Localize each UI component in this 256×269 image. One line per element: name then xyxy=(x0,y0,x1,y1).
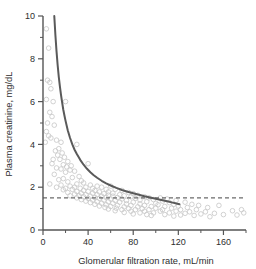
x-tick-label: 80 xyxy=(128,237,138,247)
x-axis-label: Glomerular filtration rate, mL/min xyxy=(78,256,213,266)
y-tick-label: 4 xyxy=(30,140,35,150)
x-tick-label: 160 xyxy=(216,237,231,247)
y-tick-label: 6 xyxy=(30,97,35,107)
y-axis-label: Plasma creatinine, mg/dL xyxy=(4,72,14,177)
y-tick-label: 0 xyxy=(30,225,35,235)
y-tick-label: 10 xyxy=(25,11,35,21)
scatter-plot: 04080120160 0246810 Glomerular filtratio… xyxy=(0,0,256,269)
y-tick-label: 2 xyxy=(30,182,35,192)
y-tick-label: 8 xyxy=(30,54,35,64)
x-tick-label: 0 xyxy=(40,237,45,247)
chart-figure: 04080120160 0246810 Glomerular filtratio… xyxy=(0,0,256,269)
x-tick-label: 120 xyxy=(171,237,186,247)
x-tick-label: 40 xyxy=(83,237,93,247)
plot-background xyxy=(0,0,256,269)
